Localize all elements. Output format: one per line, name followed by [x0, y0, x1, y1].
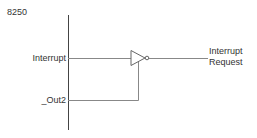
output-label-line1: Interrupt [209, 46, 243, 57]
inverter-bubble-icon [145, 56, 149, 60]
output-label-line2: Request [209, 57, 243, 68]
interrupt-label: Interrupt [32, 53, 66, 64]
circuit-diagram [0, 0, 257, 138]
out2-label: _Out2 [41, 95, 66, 106]
